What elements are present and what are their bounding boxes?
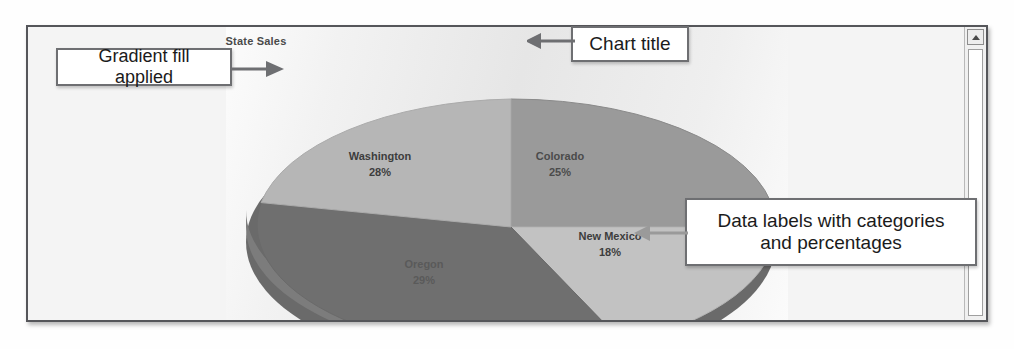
data-label-new-mexico-percent: 18% [599,246,621,258]
data-label-colorado-percent: 25% [549,166,571,178]
data-label-oregon-percent: 29% [413,274,435,286]
scroll-up-button[interactable] [967,29,984,45]
annotation-chart-title: Chart title [571,26,689,62]
triangle-up-icon [972,35,980,40]
data-label-washington-percent: 28% [369,166,391,178]
annotation-arrow-data-labels [634,222,688,244]
annotation-arrow-gradient-fill [230,58,286,80]
annotation-gradient-fill: Gradient fill applied [56,48,232,86]
data-label-new-mexico-name: New Mexico [579,230,642,242]
data-label-colorado-name: Colorado [536,150,585,162]
annotation-data-labels-line1: Data labels with categories [717,210,944,232]
annotation-arrow-chart-title [527,30,575,52]
data-label-oregon-name: Oregon [404,258,443,270]
data-label-washington-name: Washington [349,150,412,162]
scrollbar-track[interactable] [968,49,983,316]
annotation-data-labels-line2: and percentages [760,232,902,254]
vertical-scrollbar[interactable] [964,27,986,320]
annotation-data-labels: Data labels with categories and percenta… [685,198,977,266]
